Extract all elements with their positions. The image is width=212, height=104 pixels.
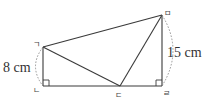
vertex-label-c: ㄷ — [115, 91, 122, 100]
label-right-length: 15 cm — [167, 45, 202, 60]
vertex-label-b: ㄴ — [33, 86, 40, 95]
vertex-label-a: ㄱ — [33, 40, 40, 49]
vertex-label-d: ㄹ — [163, 89, 170, 98]
right-angle-mark-d — [156, 80, 162, 86]
segment-ac — [43, 47, 120, 86]
segment-ae — [43, 15, 162, 47]
right-angle-mark-b — [43, 80, 49, 86]
measure-arc-left — [36, 47, 44, 86]
segment-ce — [120, 15, 162, 86]
geometry-diagram: 8 cm 15 cm ㄱ ㄴ ㄷ ㄹ ㅁ — [0, 0, 212, 104]
vertex-label-e: ㅁ — [164, 9, 171, 18]
label-left-length: 8 cm — [3, 60, 31, 75]
